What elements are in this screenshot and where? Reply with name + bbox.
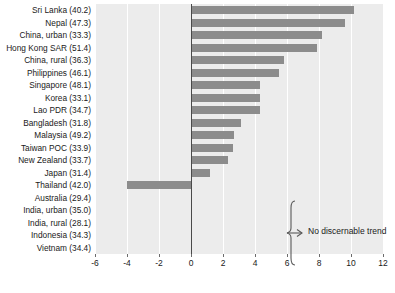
bar-row <box>95 179 383 192</box>
bar <box>191 156 228 164</box>
annotation-label: No discernable trend <box>308 226 386 236</box>
x-tick-mark <box>383 254 384 257</box>
x-tick-label: -2 <box>155 258 163 268</box>
x-tick-label: 8 <box>317 258 322 268</box>
category-label: Philippines (46.1) <box>0 67 91 80</box>
x-tick-label: 6 <box>285 258 290 268</box>
category-label: Nepal (47.3) <box>0 17 91 30</box>
x-tick-label: -6 <box>91 258 99 268</box>
category-label: Taiwan POC (33.9) <box>0 142 91 155</box>
bar <box>191 56 284 64</box>
x-tick-mark <box>95 254 96 257</box>
bar-row <box>95 104 383 117</box>
category-label: Sri Lanka (40.2) <box>0 4 91 17</box>
x-tick-mark <box>127 254 128 257</box>
bar-row <box>95 79 383 92</box>
bar <box>191 131 234 139</box>
bar-row <box>95 54 383 67</box>
category-label: India, rural (28.1) <box>0 217 91 230</box>
category-label: China, urban (33.3) <box>0 29 91 42</box>
x-tick-mark <box>351 254 352 257</box>
bar-row <box>95 142 383 155</box>
bar <box>191 31 322 39</box>
bar-row <box>95 42 383 55</box>
bar <box>191 44 317 52</box>
bar-row <box>95 117 383 130</box>
category-label: China, rural (36.3) <box>0 54 91 67</box>
zero-axis-line <box>191 4 192 254</box>
category-label: Hong Kong SAR (51.4) <box>0 42 91 55</box>
category-label: Japan (31.4) <box>0 167 91 180</box>
category-label: Australia (29.4) <box>0 192 91 205</box>
x-tick-label: 12 <box>378 258 387 268</box>
category-label: Lao PDR (34.7) <box>0 104 91 117</box>
category-label: Thailand (42.0) <box>0 179 91 192</box>
bar-row <box>95 154 383 167</box>
bar-row <box>95 92 383 105</box>
category-label: Malaysia (49.2) <box>0 129 91 142</box>
bar-row <box>95 67 383 80</box>
bar <box>191 119 241 127</box>
category-label: Bangladesh (31.8) <box>0 117 91 130</box>
category-label: Korea (33.1) <box>0 92 91 105</box>
x-tick-label: 0 <box>189 258 194 268</box>
category-label: Indonesia (34.3) <box>0 229 91 242</box>
x-tick-mark <box>319 254 320 257</box>
category-label: Singapore (48.1) <box>0 79 91 92</box>
bar <box>191 6 354 14</box>
bar <box>191 106 260 114</box>
x-tick-label: -4 <box>123 258 131 268</box>
x-tick-label: 2 <box>221 258 226 268</box>
bar <box>127 181 191 189</box>
x-tick-mark <box>159 254 160 257</box>
x-tick-label: 10 <box>346 258 355 268</box>
bar-row <box>95 129 383 142</box>
bar <box>191 144 233 152</box>
bar-row <box>95 4 383 17</box>
bar-row <box>95 167 383 180</box>
bar <box>191 81 260 89</box>
x-tick-mark <box>255 254 256 257</box>
bar <box>191 69 279 77</box>
bar <box>191 94 260 102</box>
plot-area: No discernable trend <box>95 4 383 254</box>
category-label: Vietnam (34.4) <box>0 242 91 255</box>
x-tick-mark <box>287 254 288 257</box>
x-axis: -6-4-2024681012 <box>95 254 383 274</box>
bar <box>191 19 345 27</box>
bar <box>191 169 210 177</box>
x-tick-label: 4 <box>253 258 258 268</box>
x-tick-mark <box>191 254 192 257</box>
category-label: India, urban (35.0) <box>0 204 91 217</box>
category-label: New Zealand (33.7) <box>0 154 91 167</box>
bar-row <box>95 29 383 42</box>
bar-row <box>95 17 383 30</box>
x-tick-mark <box>223 254 224 257</box>
bar-chart: Sri Lanka (40.2)Nepal (47.3)China, urban… <box>0 0 395 293</box>
